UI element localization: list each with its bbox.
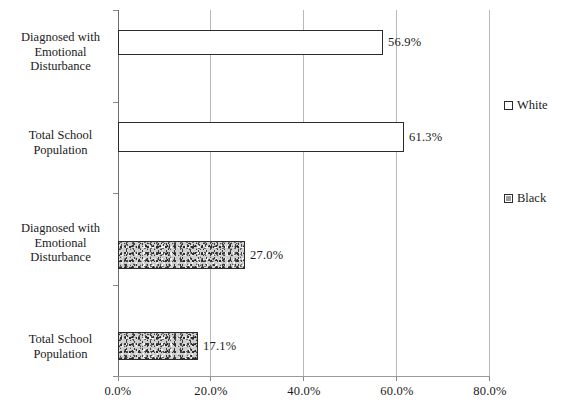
y-axis-line xyxy=(118,10,119,377)
bar-chart: Diagnosed with Emotional Disturbance Tot… xyxy=(0,0,574,417)
category-label-white-ed: Diagnosed with Emotional Disturbance xyxy=(8,30,113,74)
category-label-line: Total School xyxy=(8,128,113,143)
bar-white-emotional-disturbance xyxy=(118,30,383,55)
y-axis-tick xyxy=(113,102,118,103)
y-axis-tick xyxy=(113,10,118,11)
x-axis-tick xyxy=(489,377,490,381)
y-axis-tick xyxy=(113,285,118,286)
category-label-line: Diagnosed with xyxy=(8,221,113,236)
category-label-line: Emotional xyxy=(8,236,113,251)
gridline-20 xyxy=(210,10,211,376)
x-tick-label-80: 80.0% xyxy=(455,384,525,399)
legend-swatch-black-icon xyxy=(504,194,513,203)
category-label-black-ed: Diagnosed with Emotional Disturbance xyxy=(8,221,113,265)
gridline-80 xyxy=(489,10,490,376)
x-tick-label-20: 20.0% xyxy=(176,384,246,399)
x-axis-tick xyxy=(303,377,304,381)
bar-black-total-school-population xyxy=(118,332,198,360)
category-label-line: Population xyxy=(8,143,113,158)
category-label-line: Disturbance xyxy=(8,250,113,265)
legend-label-white: White xyxy=(517,98,548,113)
x-tick-label-40: 40.0% xyxy=(269,384,339,399)
category-label-black-total: Total School Population xyxy=(8,332,113,361)
gridline-60 xyxy=(396,10,397,376)
x-tick-label-60: 60.0% xyxy=(362,384,432,399)
bar-black-emotional-disturbance xyxy=(118,241,245,269)
x-axis-line xyxy=(118,376,490,377)
category-label-white-total: Total School Population xyxy=(8,128,113,157)
gridline-40 xyxy=(303,10,304,376)
bar-white-total-school-population xyxy=(118,122,404,152)
x-axis-tick xyxy=(118,377,119,381)
category-label-line: Emotional xyxy=(8,45,113,60)
x-axis-tick xyxy=(210,377,211,381)
legend-entry-white[interactable]: White xyxy=(504,98,548,113)
legend-label-black: Black xyxy=(517,191,546,206)
x-axis-tick xyxy=(396,377,397,381)
legend-entry-black[interactable]: Black xyxy=(504,191,546,206)
x-tick-label-0: 0.0% xyxy=(83,384,153,399)
category-label-line: Diagnosed with xyxy=(8,30,113,45)
bar-value-label: 27.0% xyxy=(250,248,283,263)
bar-value-label: 17.1% xyxy=(203,339,236,354)
category-label-line: Total School xyxy=(8,332,113,347)
category-label-line: Population xyxy=(8,347,113,362)
bar-value-label: 56.9% xyxy=(388,35,421,50)
legend-swatch-white-icon xyxy=(504,101,513,110)
bar-value-label: 61.3% xyxy=(409,130,442,145)
y-axis-tick xyxy=(113,193,118,194)
category-label-line: Disturbance xyxy=(8,59,113,74)
